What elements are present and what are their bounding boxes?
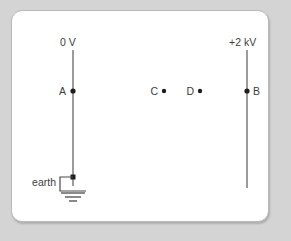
point-d-dot xyxy=(198,89,202,93)
point-b-label: B xyxy=(253,85,260,97)
left-plate-group: 0 V xyxy=(60,36,76,186)
point-d-label: D xyxy=(186,85,194,97)
point-a-dot xyxy=(70,88,75,93)
point-b-dot xyxy=(244,88,249,93)
capacitor-field-diagram: 0 V +2 kV A C D B earth xyxy=(0,0,291,241)
point-a-label: A xyxy=(59,85,66,97)
right-plate-voltage-label: +2 kV xyxy=(229,36,256,48)
point-c-dot xyxy=(162,89,166,93)
left-plate-voltage-label: 0 V xyxy=(60,36,76,48)
right-plate-group: +2 kV xyxy=(229,36,256,188)
point-c-group: C xyxy=(150,85,166,97)
point-c-label: C xyxy=(150,85,158,97)
earth-label: earth xyxy=(32,176,56,188)
earth-ground-symbol: earth xyxy=(32,175,86,202)
point-d-group: D xyxy=(186,85,202,97)
